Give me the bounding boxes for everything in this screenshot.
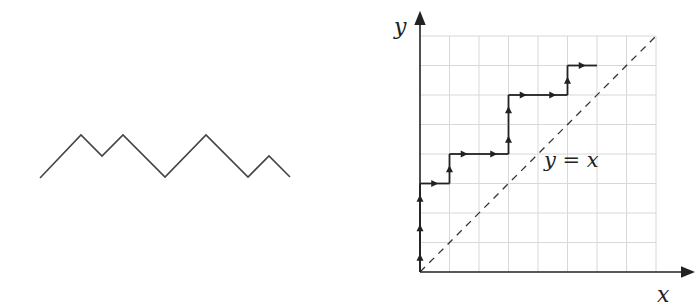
step-arrow: [505, 136, 512, 143]
step-arrow: [564, 77, 571, 84]
step-arrow: [461, 151, 468, 158]
step-arrow: [490, 151, 497, 158]
zigzag-path: [40, 135, 290, 178]
figure-canvas: y x y = x: [0, 0, 695, 307]
axes: [420, 18, 688, 272]
step-arrow: [579, 62, 586, 69]
step-arrow: [417, 254, 424, 261]
step-arrow: [505, 106, 512, 113]
step-arrow: [417, 195, 424, 202]
x-axis-label: x: [657, 282, 670, 307]
step-arrow: [549, 92, 556, 99]
diagonal-label: y = x: [543, 148, 599, 172]
y-axis-label: y: [393, 14, 407, 39]
step-arrow: [417, 224, 424, 231]
step-arrow: [520, 92, 527, 99]
step-arrow: [431, 180, 438, 187]
step-arrow: [446, 165, 453, 172]
